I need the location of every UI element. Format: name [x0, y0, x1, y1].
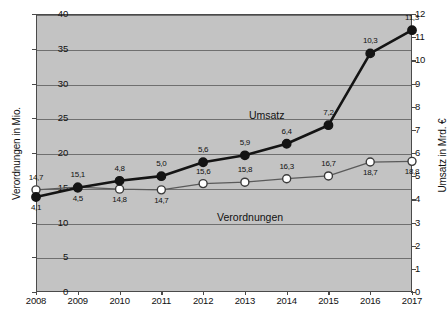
data-point-label: 10,3 — [355, 36, 385, 45]
data-point-label: 15,6 — [188, 167, 218, 176]
data-point-label: 16,7 — [313, 159, 343, 168]
data-point-marker — [324, 121, 332, 129]
data-point-marker — [282, 140, 290, 148]
data-point-label: 18,7 — [355, 168, 385, 177]
data-point-label: 6,4 — [272, 127, 302, 136]
data-point-label: 5,9 — [230, 138, 260, 147]
data-point-marker — [366, 158, 374, 166]
data-point-marker — [115, 177, 123, 185]
data-point-label: 7,2 — [313, 108, 343, 117]
data-point-label: 5,0 — [146, 159, 176, 168]
data-point-label: 14,7 — [21, 173, 51, 182]
series-label-verordnungen: Verordnungen — [217, 211, 283, 223]
data-point-label: 4,8 — [105, 164, 135, 173]
data-point-marker — [32, 193, 40, 201]
data-point-label: 15,1 — [63, 170, 93, 179]
data-point-marker — [241, 178, 249, 186]
data-point-marker — [116, 185, 124, 193]
data-point-marker — [324, 172, 332, 180]
data-point-label: 4,5 — [63, 194, 93, 203]
data-point-label: 14,7 — [146, 196, 176, 205]
data-point-label: 18,8 — [397, 167, 427, 176]
data-point-marker — [74, 184, 82, 192]
data-point-marker — [199, 158, 207, 166]
data-point-label: 15,8 — [230, 165, 260, 174]
data-point-label: 5,6 — [188, 145, 218, 154]
data-point-label: 14,8 — [105, 195, 135, 204]
series-label-umsatz: Umsatz — [249, 109, 285, 121]
data-point-marker — [366, 49, 374, 57]
data-point-label: 4,1 — [21, 203, 51, 212]
data-point-marker — [157, 172, 165, 180]
data-point-marker — [157, 186, 165, 194]
data-point-marker — [199, 180, 207, 188]
data-point-label: 11,3 — [397, 13, 427, 22]
data-point-marker — [408, 26, 416, 34]
data-point-marker — [241, 151, 249, 159]
data-point-label: 16,3 — [272, 162, 302, 171]
data-point-marker — [408, 157, 416, 165]
data-point-marker — [283, 175, 291, 183]
